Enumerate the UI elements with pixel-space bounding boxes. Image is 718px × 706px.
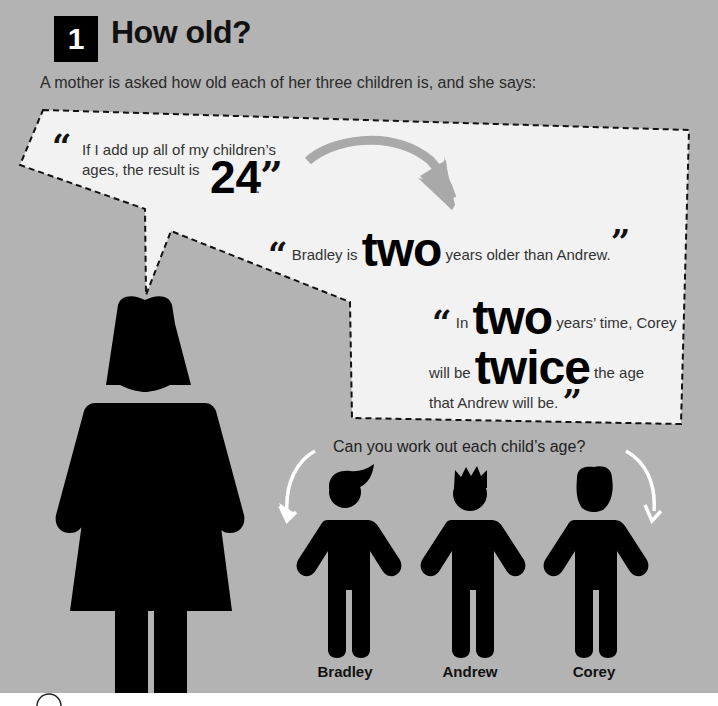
close-quote-icon: ” <box>260 152 283 199</box>
child-label-andrew: Andrew <box>425 663 515 680</box>
quote-corey-post1: years’ time, Corey <box>556 314 676 331</box>
quote-corey-line1: “ In two years’ time, Corey <box>432 290 677 345</box>
quote-corey-line3: that Andrew will be. ” <box>429 382 582 422</box>
quote-bradley-older: “ Bradley is two years older than Andrew… <box>268 222 630 277</box>
close-quote-icon: ” <box>562 382 582 422</box>
corey-figure-icon <box>544 466 649 658</box>
quote-bradley-post: years older than Andrew. <box>446 246 611 263</box>
right-curved-arrow-icon <box>626 451 661 521</box>
andrew-figure-icon <box>421 466 526 658</box>
quote-corey-big1: two <box>472 291 552 344</box>
open-quote-icon: “ <box>432 302 452 342</box>
quote-corey-post2: the age <box>594 364 644 381</box>
open-quote-icon: “ <box>268 234 288 274</box>
quote-bradley-pre: Bradley is <box>292 246 358 263</box>
mother-figure-icon <box>56 296 245 693</box>
next-item-circle-icon <box>37 694 61 706</box>
sum-value: 24 <box>210 150 261 204</box>
child-label-corey: Corey <box>549 663 639 680</box>
quote-bradley-big: two <box>362 223 442 276</box>
bradley-figure-icon <box>297 464 402 658</box>
left-curved-arrow-icon <box>279 451 315 522</box>
quote-corey-line3-text: that Andrew will be. <box>429 394 558 411</box>
open-quote-icon: “ <box>52 136 72 156</box>
quote-sum-end: . <box>256 180 260 196</box>
close-quote-icon: ” <box>611 222 631 262</box>
quote-corey-pre2: will be <box>429 364 471 381</box>
quote-corey-pre: In <box>456 314 469 331</box>
question-text: Can you work out each child’s age? <box>333 438 585 456</box>
child-label-bradley: Bradley <box>300 663 390 680</box>
